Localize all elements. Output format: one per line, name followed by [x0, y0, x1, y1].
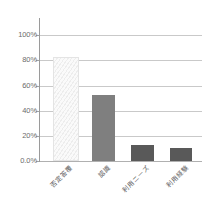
- bar-3[interactable]: [170, 148, 192, 161]
- x-axis-label-1: 認識: [97, 165, 112, 180]
- y-tick-label-80: 80%: [3, 56, 37, 64]
- bar-0[interactable]: [53, 57, 79, 161]
- bar-1[interactable]: [92, 95, 115, 161]
- y-tick-label-20: 20%: [3, 132, 37, 140]
- gridline-0-baseline: [39, 161, 202, 162]
- y-tick-label-40: 40%: [3, 107, 37, 115]
- y-axis-ticks: 100% 80% 60% 40% 20% 0.0%: [0, 18, 37, 161]
- bar-chart: 100% 80% 60% 40% 20% 0.0% 否定答覆 認識 利用ニーズ …: [0, 0, 209, 210]
- y-tick-label-100: 100%: [3, 31, 37, 39]
- bar-series: [39, 18, 202, 161]
- x-axis-labels: 否定答覆 認識 利用ニーズ 利用経験: [39, 163, 202, 210]
- x-axis-label-3: 利用経験: [165, 165, 190, 190]
- x-axis-label-2: 利用ニーズ: [121, 165, 151, 195]
- bar-2[interactable]: [131, 145, 154, 161]
- y-tick-label-60: 60%: [3, 82, 37, 90]
- x-axis-label-0: 否定答覆: [49, 165, 74, 190]
- y-tick-label-0: 0.0%: [3, 157, 37, 165]
